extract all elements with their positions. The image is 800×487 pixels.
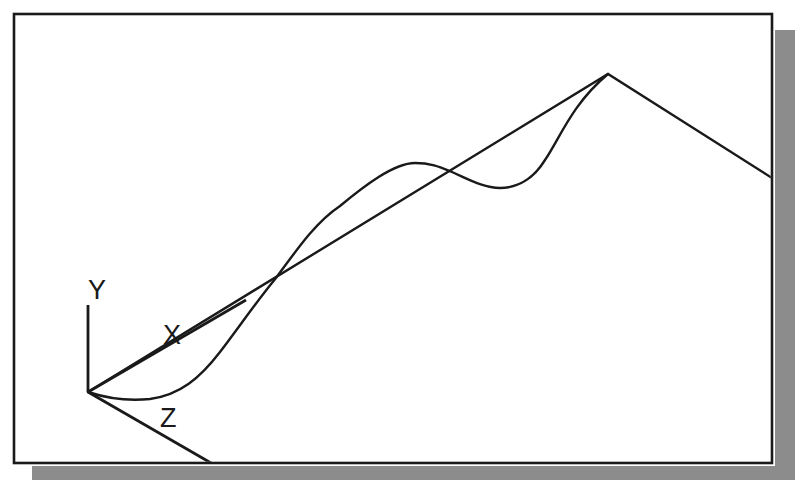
figure-svg: 3D axes with sinusoidal curve and piecew… — [0, 0, 800, 487]
z-axis-label: Z — [160, 403, 177, 433]
drop-shadow-bottom — [32, 466, 795, 480]
x-axis-label: X — [163, 320, 181, 350]
drop-shadow-right — [775, 30, 795, 480]
y-axis-label: Y — [88, 275, 106, 305]
diagram-canvas: 3D axes with sinusoidal curve and piecew… — [0, 0, 800, 487]
diagram-border — [14, 14, 772, 463]
